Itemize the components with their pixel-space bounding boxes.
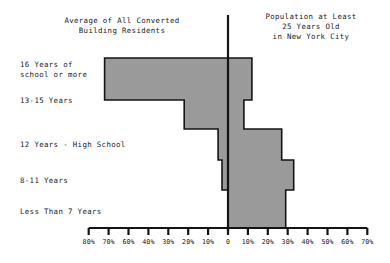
axis-tick-label-left-0: 80% (83, 238, 95, 246)
axis-tick-label-zero-0: 0 (226, 238, 230, 246)
population-pyramid-chart: Average of All Converted Building Reside… (0, 0, 390, 263)
plot-area (0, 0, 390, 263)
axis-tick-label-right-6: 70% (361, 238, 373, 246)
axis-tick-label-right-1: 20% (262, 238, 274, 246)
axis-tick-label-left-2: 60% (122, 238, 134, 246)
axis-tick-label-right-0: 10% (242, 238, 254, 246)
axis-tick-label-right-4: 50% (321, 238, 333, 246)
axis-tick-label-left-3: 40% (142, 238, 154, 246)
bar-series-right (228, 58, 294, 228)
axis-tick-label-right-5: 60% (341, 238, 353, 246)
axis-tick-label-left-4: 30% (162, 238, 174, 246)
axis-tick-label-right-2: 30% (282, 238, 294, 246)
axis-tick-label-left-1: 70% (102, 238, 114, 246)
axis-tick-label-left-5: 20% (182, 238, 194, 246)
axis-tick-label-right-3: 40% (301, 238, 313, 246)
bar-series-left (105, 58, 228, 228)
axis-tick-label-left-6: 10% (202, 238, 214, 246)
